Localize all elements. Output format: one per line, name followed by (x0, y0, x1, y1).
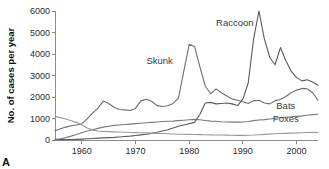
x-tick-label-1960: 1960 (72, 146, 92, 156)
x-tick-label-1970: 1970 (125, 146, 145, 156)
panel-letter: A (2, 156, 10, 168)
y-tick-label-1000: 1000 (30, 114, 50, 124)
series-label-raccoon: Raccoon (216, 17, 254, 28)
y-tick-label-6000: 6000 (30, 6, 50, 16)
y-tick-label-0: 0 (45, 135, 50, 145)
x-tick-label-2000: 2000 (287, 146, 307, 156)
rabies-cases-figure: 0100020003000400050006000196019701980199… (0, 0, 329, 169)
y-tick-label-5000: 5000 (30, 28, 50, 38)
line-chart: 0100020003000400050006000196019701980199… (0, 0, 329, 169)
y-tick-label-4000: 4000 (30, 49, 50, 59)
y-tick-label-2000: 2000 (30, 92, 50, 102)
x-tick-label-1990: 1990 (233, 146, 253, 156)
series-label-bats: Bats (276, 100, 295, 111)
series-label-skunk: Skunk (146, 55, 173, 66)
x-tick-label-1980: 1980 (179, 146, 199, 156)
series-label-foxes: Foxes (273, 113, 299, 124)
y-axis-title: No. of cases per year (5, 27, 16, 123)
series-labels: SkunkRaccoonBatsFoxes (146, 17, 299, 123)
y-tick-label-3000: 3000 (30, 71, 50, 81)
